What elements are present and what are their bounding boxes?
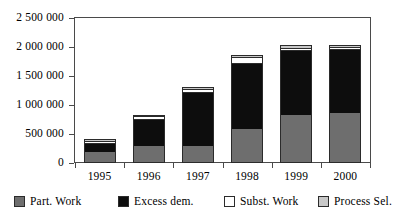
bar-segment-excess-dem <box>329 49 361 112</box>
x-axis-tick-mark <box>272 163 273 168</box>
legend-label: Process Sel. <box>334 195 392 207</box>
y-axis-tick-label: 2 500 000 <box>16 12 64 24</box>
y-axis: 2 500 0002 000 0001 500 0001 000 000500 … <box>0 0 74 180</box>
legend-swatch-icon <box>318 196 329 207</box>
x-axis-tick-mark <box>173 163 174 168</box>
x-axis-tick-mark <box>321 163 322 168</box>
legend-swatch-icon <box>118 196 129 207</box>
chart-legend: Part. WorkExcess dem.Subst. WorkProcess … <box>0 190 397 212</box>
legend-item-excess-dem[interactable]: Excess dem. <box>118 195 194 207</box>
x-axis-tick-label: 1999 <box>272 170 321 182</box>
x-axis-tick-mark <box>370 163 371 168</box>
legend-label: Excess dem. <box>134 195 194 207</box>
legend-item-process-sel[interactable]: Process Sel. <box>318 195 392 207</box>
bar-segment-excess-dem <box>231 63 263 129</box>
legend-item-subst-work[interactable]: Subst. Work <box>224 195 299 207</box>
stacked-bar-chart: 2 500 0002 000 0001 500 0001 000 000500 … <box>0 0 397 220</box>
bar-segment-excess-dem <box>133 119 165 146</box>
legend-swatch-icon <box>224 196 235 207</box>
bar-1997[interactable] <box>182 87 214 163</box>
x-axis-tick-label: 1997 <box>173 170 222 182</box>
bar-segment-excess-dem <box>182 92 214 146</box>
x-axis-tick-label: 1996 <box>124 170 173 182</box>
bar-segment-excess-dem <box>84 143 116 152</box>
bar-segment-excess-dem <box>280 50 312 115</box>
legend-swatch-icon <box>14 196 25 207</box>
bar-segment-part-work <box>329 113 361 163</box>
x-axis-tick-mark <box>223 163 224 168</box>
x-axis-tick-mark <box>75 163 76 168</box>
bar-1999[interactable] <box>280 45 312 163</box>
legend-label: Subst. Work <box>240 195 299 207</box>
bar-2000[interactable] <box>329 45 361 163</box>
y-axis-tick-label: 0 <box>58 157 64 169</box>
y-axis-tick-mark <box>69 163 74 164</box>
y-axis-tick-label: 1 000 000 <box>16 99 64 111</box>
x-axis-tick-mark <box>124 163 125 168</box>
y-axis-tick-label: 1 500 000 <box>16 70 64 82</box>
bar-segment-part-work <box>231 129 263 163</box>
bar-segment-part-work <box>133 146 165 163</box>
x-axis-tick-label: 1995 <box>75 170 124 182</box>
legend-label: Part. Work <box>30 195 81 207</box>
y-axis-tick-label: 500 000 <box>25 128 64 140</box>
x-axis-tick-label: 2000 <box>321 170 370 182</box>
bar-segment-part-work <box>182 146 214 163</box>
legend-item-part-work[interactable]: Part. Work <box>14 195 81 207</box>
bars-layer <box>75 18 370 163</box>
bar-1995[interactable] <box>84 139 116 163</box>
x-axis-tick-label: 1998 <box>223 170 272 182</box>
bar-1998[interactable] <box>231 55 263 163</box>
y-axis-tick-label: 2 000 000 <box>16 41 64 53</box>
bar-segment-part-work <box>280 115 312 163</box>
bar-segment-part-work <box>84 152 116 163</box>
bar-1996[interactable] <box>133 115 165 163</box>
